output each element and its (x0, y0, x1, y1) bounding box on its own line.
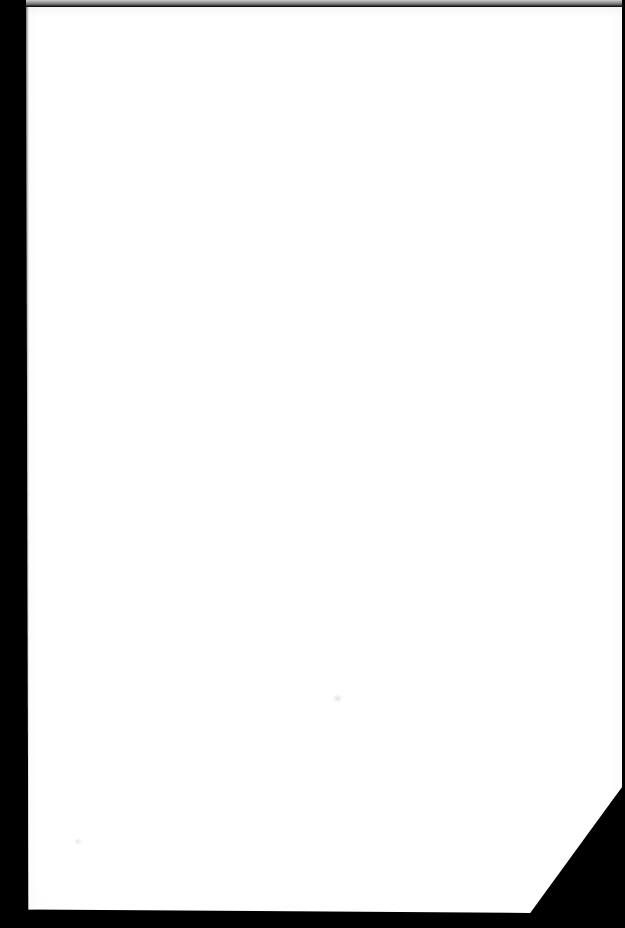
paper-tone-overlay (26, 7, 622, 913)
paper-sheet (26, 7, 622, 913)
scan-viewport (0, 0, 625, 928)
top-edge-line (26, 0, 622, 7)
left-gutter-band (0, 0, 26, 928)
